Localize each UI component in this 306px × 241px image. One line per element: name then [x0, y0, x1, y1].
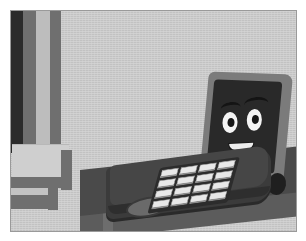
keyboard-key[interactable]	[198, 162, 217, 173]
keyboard-key[interactable]	[154, 188, 173, 199]
doorway-band-dark	[10, 10, 23, 153]
shelf-bar-four	[48, 180, 58, 210]
keyboard-key[interactable]	[173, 186, 192, 197]
keyboard-key[interactable]	[192, 183, 211, 194]
keyboard-key[interactable]	[176, 175, 195, 186]
shelf-side-panel	[61, 150, 72, 190]
doorway-band-mid-2	[50, 10, 61, 150]
keyboard-key[interactable]	[160, 168, 179, 179]
keyboard-key[interactable]	[179, 165, 198, 176]
keyboard-key[interactable]	[195, 173, 214, 184]
keyboard-key[interactable]	[211, 180, 230, 191]
doorway-band-mid	[23, 10, 36, 153]
picture-frame	[10, 10, 297, 232]
keyboard-key[interactable]	[214, 170, 233, 181]
keyboard-key[interactable]	[217, 160, 236, 171]
illustration-canvas	[0, 0, 306, 241]
keyboard-key[interactable]	[157, 178, 176, 189]
